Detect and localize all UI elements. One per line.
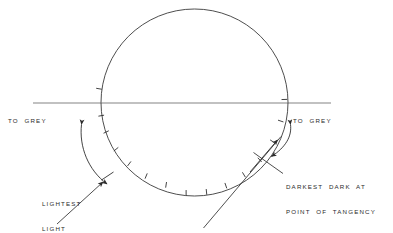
tick-mark (166, 182, 167, 188)
sphere-circle (101, 9, 288, 196)
tick-mark (128, 161, 131, 166)
label-to-grey-right: TO GREY (293, 117, 332, 125)
label-lightest-light-line2: LIGHT (42, 225, 81, 233)
label-lightest-light: LIGHTEST LIGHT (42, 184, 81, 233)
label-darkest-dark-line2: POINT OF TANGENCY (286, 208, 376, 216)
left-sweep-endbar (102, 172, 114, 180)
diagram-canvas: TO GREY TO GREY LIGHTEST LIGHT DARKEST D… (0, 0, 393, 233)
tick-mark (278, 120, 283, 122)
tick-mark (242, 172, 245, 177)
tick-mark (270, 140, 275, 143)
tick-mark (206, 189, 207, 195)
tick-mark (96, 88, 102, 89)
left-sweep-arrow[interactable] (81, 125, 107, 185)
tick-mark (145, 173, 147, 178)
tick-mark (225, 183, 227, 188)
tick-mark (114, 147, 118, 151)
tangent-line (204, 137, 282, 229)
value-tick-marks (96, 88, 287, 195)
tick-mark (98, 115, 104, 116)
label-lightest-light-line1: LIGHTEST (42, 200, 81, 208)
label-to-grey-left: TO GREY (8, 117, 47, 125)
label-darkest-dark-line1: DARKEST DARK AT (286, 183, 376, 191)
label-darkest-dark: DARKEST DARK AT POINT OF TANGENCY (286, 167, 376, 233)
